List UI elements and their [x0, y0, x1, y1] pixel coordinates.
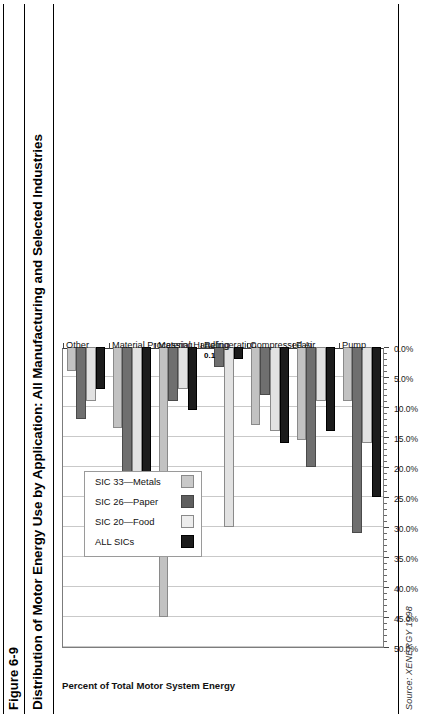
bar-material-handling-0 [188, 347, 198, 410]
bar-pump-0 [372, 347, 382, 497]
axis-tick-minor [384, 365, 387, 366]
bar-other-3 [67, 347, 77, 371]
axis-tick-major [384, 467, 389, 468]
bar-material-processing-2 [122, 347, 132, 473]
axis-tick-major [384, 527, 389, 528]
axis-tick-minor [384, 641, 387, 642]
chart-legend: ALL SICsSIC 20—FoodSIC 26—PaperSIC 33—Me… [84, 471, 202, 557]
axis-tick-major [384, 497, 389, 498]
axis-tick-minor [384, 479, 387, 480]
axis-tick-minor [384, 539, 387, 540]
axis-tick-minor [384, 623, 387, 624]
bar-fan-0 [326, 347, 336, 431]
bar-other-0 [96, 347, 106, 389]
legend-label-2: SIC 26—Paper [95, 496, 158, 507]
axis-tick-minor [384, 635, 387, 636]
axis-tick-minor [384, 359, 387, 360]
legend-swatch-0 [181, 535, 194, 548]
axis-tick-minor [384, 575, 387, 576]
axis-tick-minor [384, 533, 387, 534]
axis-tick-major [384, 377, 389, 378]
value-axis-tick-label: 5.0% [394, 374, 413, 384]
axis-tick-minor [384, 413, 387, 414]
axis-tick-major [384, 647, 389, 648]
axis-tick-minor [384, 521, 387, 522]
axis-tick-minor [384, 581, 387, 582]
axis-tick-major [384, 617, 389, 618]
axis-tick-minor [384, 599, 387, 600]
axis-tick-minor [384, 611, 387, 612]
bar-material-processing-0 [142, 347, 152, 485]
bar-compressed-air-3 [251, 347, 261, 425]
bar-fan-1 [316, 347, 326, 401]
axis-tick-minor [384, 593, 387, 594]
bar-other-1 [86, 347, 96, 401]
source-prefix: Source: [404, 678, 414, 710]
axis-tick-minor [384, 383, 387, 384]
legend-label-0: ALL SICs [95, 536, 134, 547]
axis-tick-minor [384, 545, 387, 546]
axis-tick-minor [384, 551, 387, 552]
footer-rule [398, 4, 399, 714]
category-label-pump: Pump [342, 340, 366, 350]
axis-tick-minor [384, 425, 387, 426]
axis-tick-minor [384, 461, 387, 462]
value-axis-title-wrap: Percent of Total Motor System Energy [62, 656, 384, 680]
legend-label-3: SIC 33—Metals [95, 476, 161, 487]
figure-number: Figure 6-9 [6, 647, 21, 710]
axis-tick-minor [384, 515, 387, 516]
figure-header: Figure 6-9 Distribution of Motor Energy … [0, 0, 56, 720]
figure-title: Distribution of Motor Energy Use by Appl… [30, 134, 45, 710]
bar-material-processing-3 [113, 347, 123, 428]
axis-tick-minor [384, 605, 387, 606]
axis-tick-major [384, 437, 389, 438]
category-axis-labels: PumpFanCompressed AirRefrigerationMateri… [62, 300, 384, 346]
axis-tick-minor [384, 503, 387, 504]
value-axis-tick-label: 0.0% [394, 344, 413, 354]
bar-pump-2 [352, 347, 362, 533]
bar-compressed-air-1 [270, 347, 280, 431]
axis-tick-minor [384, 473, 387, 474]
bar-material-handling-1 [178, 347, 188, 389]
figure-canvas: Figure 6-9 Distribution of Motor Energy … [0, 0, 427, 720]
axis-tick-minor [384, 395, 387, 396]
legend-swatch-3 [181, 475, 194, 488]
header-rule-bottom [53, 4, 54, 714]
axis-tick-minor [384, 443, 387, 444]
axis-tick-minor [384, 371, 387, 372]
bar-fan-3 [297, 347, 307, 440]
bar-compressed-air-0 [280, 347, 290, 443]
gridline [63, 586, 383, 587]
axis-tick-minor [384, 389, 387, 390]
figure-page: Figure 6-9 Distribution of Motor Energy … [0, 0, 427, 720]
legend-swatch-1 [181, 515, 194, 528]
bar-material-handling-2 [168, 347, 178, 401]
axis-tick-minor [384, 563, 387, 564]
axis-tick-major [384, 407, 389, 408]
axis-tick-minor [384, 509, 387, 510]
header-rule-top [3, 4, 4, 714]
axis-tick-major [384, 347, 389, 348]
axis-tick-minor [384, 569, 387, 570]
gridline [63, 436, 383, 437]
axis-tick-minor [384, 431, 387, 432]
gridline [63, 646, 383, 647]
category-label-compressed-air: Compressed Air [250, 340, 315, 350]
value-axis-ticks [384, 347, 392, 648]
axis-tick-minor [384, 353, 387, 354]
axis-tick-minor [384, 629, 387, 630]
header-rule-mid [24, 4, 25, 714]
data-label-annotation: 0.1 [204, 351, 215, 360]
axis-tick-minor [384, 449, 387, 450]
category-label-material-processing: Material Processing [112, 340, 193, 350]
bar-pump-3 [343, 347, 353, 401]
axis-tick-minor [384, 455, 387, 456]
axis-tick-minor [384, 419, 387, 420]
axis-tick-minor [384, 485, 387, 486]
bar-fan-2 [306, 347, 316, 467]
bar-pump-1 [362, 347, 372, 443]
category-label-other: Other [66, 340, 89, 350]
axis-tick-minor [384, 491, 387, 492]
axis-tick-minor [384, 401, 387, 402]
value-axis-title: Percent of Total Motor System Energy [62, 680, 235, 691]
